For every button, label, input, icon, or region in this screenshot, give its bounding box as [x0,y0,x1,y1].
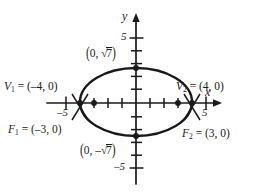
vertex-left-equals: = [18,80,25,92]
point-focus-left [91,100,97,106]
focus-right-annotation: F2 = (3, 0) [182,128,230,141]
focus-right-equals: = [196,127,203,139]
covertex-top-annotation: (0, √7) [86,47,116,60]
vertex-left-varname: V [4,80,11,92]
point-vertex-right [189,100,195,106]
covertex-bottom-x: 0, – [84,144,101,156]
covertex-top-open-paren: ( [86,45,90,62]
covertex-top-x: 0, [90,47,102,59]
y-axis-label: y [122,10,127,22]
point-covertex-bottom [133,133,139,139]
focus-left-annotation: F1 = (–3, 0) [8,124,62,137]
focus-right-subscript: 2 [189,132,193,141]
focus-left-point: (–3, 0) [31,123,62,135]
focus-right-varname: F [182,127,189,139]
y-tick-label-pos5: 5 [121,31,127,42]
focus-left-subscript: 1 [15,128,19,137]
ellipse-figure [0,0,256,195]
vertex-right-point: (4, 0) [199,80,224,92]
focus-left-equals: = [22,123,29,135]
vertex-right-subscript: 2 [183,85,187,94]
point-covertex-top [133,65,139,71]
vertex-left-annotation: V1 = (–4, 0) [4,81,58,94]
vertex-left-point: (–4, 0) [27,80,58,92]
y-tick-label-neg5: –5 [114,161,125,172]
vertex-right-varname: V [176,80,183,92]
point-focus-right [175,100,181,106]
vertex-right-equals: = [190,80,197,92]
covertex-bottom-close-paren: ) [112,142,116,159]
x-tick-label-pos5: 5 [202,107,208,118]
covertex-bottom-open-paren: ( [80,142,84,159]
vertex-left-subscript: 1 [11,85,15,94]
vertex-right-annotation: V2 = (4, 0) [176,81,224,94]
focus-right-point: (3, 0) [205,127,230,139]
x-tick-label-neg5: –5 [57,107,68,118]
covertex-bottom-annotation: (0, –√7) [80,144,116,157]
covertex-top-close-paren: ) [112,45,116,62]
focus-left-varname: F [8,123,15,135]
point-vertex-left [77,100,83,106]
